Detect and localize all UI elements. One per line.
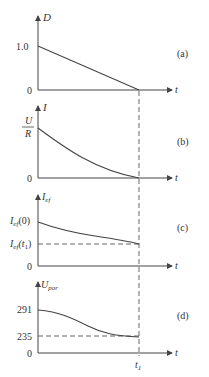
curve [38, 310, 139, 337]
tick-mid: 235 [17, 331, 32, 342]
tick-top: 291 [17, 304, 32, 315]
panel-label: (b) [177, 136, 189, 148]
panel-label: (c) [177, 222, 188, 234]
panel-b: I t U R 0 (b) [22, 101, 189, 184]
curve [38, 222, 139, 244]
tick-origin: 0 [27, 173, 32, 184]
x-axis-label: t [175, 172, 178, 183]
t1-label: t1 [135, 359, 141, 372]
tick-top: Ief(0) [9, 215, 30, 228]
x-axis-label: t [175, 260, 178, 271]
tick-top-fraction: U R [22, 115, 34, 139]
y-axis-label: D [42, 11, 51, 23]
tick-origin: 0 [27, 261, 32, 272]
tick-origin: 0 [27, 348, 32, 359]
curve [38, 46, 139, 90]
tick-top: 1.0 [16, 41, 29, 52]
panel-c: Ief t Ief(0) Ief(t1) 0 (c) [9, 191, 188, 272]
y-axis-label: Ief [41, 191, 51, 204]
panel-d: Upor t 291 235 0 t1 (d) [17, 279, 189, 372]
panel-label: (d) [177, 310, 189, 322]
tick-mid: Ief(t1) [9, 238, 31, 251]
curve [38, 128, 139, 178]
y-axis-label: Upor [41, 279, 58, 292]
y-axis-label: I [42, 101, 48, 113]
tick-origin: 0 [27, 85, 32, 96]
panel-label: (a) [177, 48, 188, 60]
figure-canvas: D t 1.0 0 (a) I t U R 0 (b) Ief t Ief(0)… [0, 0, 209, 377]
fraction-numerator: U [25, 115, 33, 126]
x-axis-label: t [175, 347, 178, 358]
x-axis-label: t [175, 84, 178, 95]
fraction-denominator: R [24, 128, 31, 139]
panel-a: D t 1.0 0 (a) [16, 11, 188, 96]
